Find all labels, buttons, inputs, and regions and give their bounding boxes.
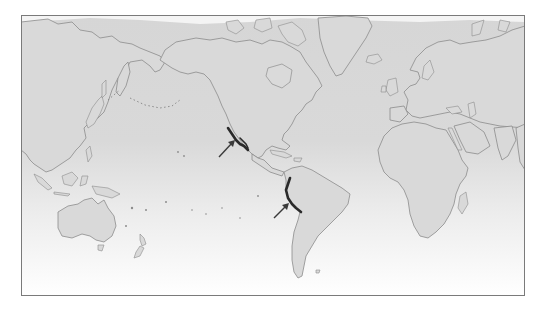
figure-canvas bbox=[0, 0, 537, 312]
ireland bbox=[381, 86, 386, 92]
world-map bbox=[0, 0, 537, 312]
falkland-islands bbox=[316, 270, 320, 273]
